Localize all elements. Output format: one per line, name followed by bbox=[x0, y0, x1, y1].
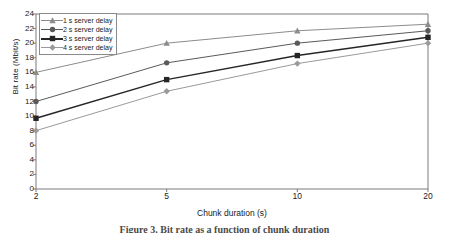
legend-label: 2 s server delay bbox=[63, 26, 112, 34]
x-tick-label: 10 bbox=[282, 192, 312, 201]
x-tick-label: 5 bbox=[152, 192, 182, 201]
legend-swatch-triangle-up-icon bbox=[41, 16, 63, 25]
legend-label: 1 s server delay bbox=[63, 17, 112, 25]
chart-legend: 1 s server delay2 s server delay3 s serv… bbox=[39, 13, 117, 55]
x-tick-label: 2 bbox=[21, 192, 51, 201]
x-tick-label: 20 bbox=[413, 192, 443, 201]
legend-item-1: 1 s server delay bbox=[41, 16, 112, 25]
legend-item-3: 3 s server delay bbox=[41, 34, 112, 43]
legend-swatch-diamond-icon bbox=[41, 43, 63, 52]
legend-swatch-circle-icon bbox=[41, 25, 63, 34]
legend-item-4: 4 s server delay bbox=[41, 43, 112, 52]
legend-swatch-square-icon bbox=[41, 34, 63, 43]
figure-caption: Figure 3. Bit rate as a function of chun… bbox=[0, 224, 449, 233]
chart-figure: 024681012141618202224 251020 Bit rate (M… bbox=[0, 0, 449, 233]
y-axis-label: Bit rate (Mbit/s) bbox=[11, 7, 20, 127]
legend-item-2: 2 s server delay bbox=[41, 25, 112, 34]
legend-label: 3 s server delay bbox=[63, 35, 112, 43]
legend-label: 4 s server delay bbox=[63, 44, 112, 52]
x-axis-label: Chunk duration (s) bbox=[36, 208, 428, 218]
